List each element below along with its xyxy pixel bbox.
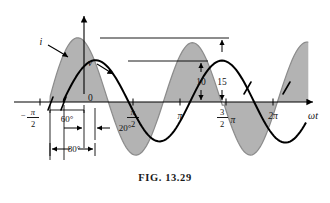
amplitude-label-10: 10 — [196, 77, 206, 87]
current-curve-label: i — [40, 36, 43, 47]
x-tick-label-pi: π — [178, 111, 183, 121]
tick-denominator: 2 — [131, 119, 135, 129]
tick-numerator: 3 — [220, 107, 224, 117]
svg-text:−: − — [21, 110, 26, 120]
tick-suffix: π — [231, 115, 236, 125]
phase-label-60: 60° — [61, 114, 74, 124]
amplitude-label-15: 15 — [217, 77, 227, 87]
x-axis-label: ωt — [308, 110, 318, 121]
tick-denominator: 2 — [220, 119, 224, 129]
x-tick-label-two-pi: 2π — [268, 111, 278, 121]
figure-caption: FIG. 13.29 — [0, 172, 330, 183]
tick-numerator: π — [131, 107, 136, 117]
phase-label-80: 80° — [68, 144, 81, 154]
tick-denominator: 2 — [31, 119, 35, 129]
x-tick-label-neg-pi-over-2: − π 2 — [21, 107, 39, 129]
tick-numerator: π — [31, 107, 36, 117]
amplitude-reference-lines — [100, 38, 229, 61]
phase-dimension-60 — [50, 110, 84, 113]
phase-label-20: 20° — [119, 123, 132, 133]
figure-13-29: i v 0 10 15 60° 20° 80° − π 2 π 2 π 3 2 … — [0, 0, 330, 203]
voltage-curve-label: v — [88, 57, 93, 68]
origin-label: 0 — [88, 93, 93, 103]
